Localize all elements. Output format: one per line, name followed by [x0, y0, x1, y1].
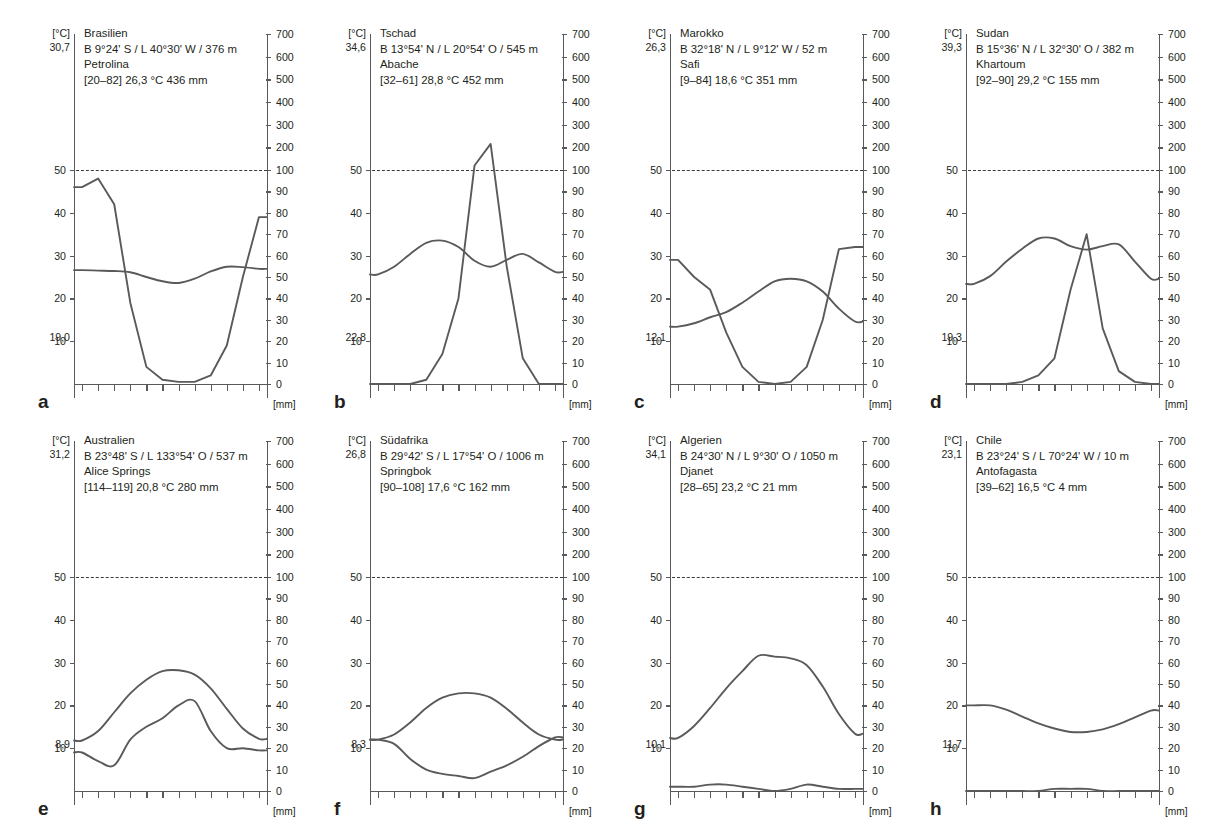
panel-letter-e: e — [38, 799, 49, 818]
climate-curves — [22, 12, 309, 404]
panel-letter-c: c — [634, 392, 645, 411]
temperature-curve — [370, 693, 563, 740]
climate-curves — [914, 419, 1201, 811]
climate-panel-c: [°C]26,312,11020304050010203040506070809… — [618, 12, 905, 402]
climate-curves — [22, 419, 309, 811]
climate-panel-a: [°C]30,719,01020304050010203040506070809… — [22, 12, 309, 402]
precipitation-curve — [74, 179, 267, 382]
temperature-curve — [670, 279, 863, 327]
plot-area: [°C]26,312,11020304050010203040506070809… — [618, 12, 905, 382]
plot-area: [°C]34,110,11020304050010203040506070809… — [618, 419, 905, 789]
climate-diagram-sheet: [°C]30,719,01020304050010203040506070809… — [0, 0, 1211, 833]
temperature-curve — [370, 240, 563, 275]
precipitation-curve — [670, 784, 863, 791]
panel-letter-a: a — [38, 392, 49, 411]
climate-panel-e: [°C]31,28,910203040500102030405060708090… — [22, 419, 309, 809]
panel-letter-g: g — [634, 799, 646, 818]
climate-panel-f: [°C]26,88,310203040500102030405060708090… — [318, 419, 605, 809]
plot-area: [°C]34,622,81020304050010203040506070809… — [318, 12, 605, 382]
precipitation-curve — [74, 700, 267, 767]
climate-curves — [318, 419, 605, 811]
panel-letter-f: f — [334, 799, 340, 818]
climate-curves — [618, 419, 905, 811]
climate-curves — [618, 12, 905, 404]
temperature-curve — [74, 266, 267, 283]
temperature-curve — [74, 670, 267, 741]
panel-letter-d: d — [930, 392, 942, 411]
climate-panel-b: [°C]34,622,81020304050010203040506070809… — [318, 12, 605, 402]
temperature-curve — [966, 237, 1159, 284]
plot-area: [°C]26,88,310203040500102030405060708090… — [318, 419, 605, 789]
plot-area: [°C]39,319,31020304050010203040506070809… — [914, 12, 1201, 382]
panel-letter-h: h — [930, 799, 942, 818]
climate-panel-d: [°C]39,319,31020304050010203040506070809… — [914, 12, 1201, 402]
precipitation-curve — [370, 737, 563, 778]
plot-area: [°C]23,111,71020304050010203040506070809… — [914, 419, 1201, 789]
climate-panel-g: [°C]34,110,11020304050010203040506070809… — [618, 419, 905, 809]
temperature-curve — [670, 655, 863, 739]
climate-panel-h: [°C]23,111,71020304050010203040506070809… — [914, 419, 1201, 809]
precipitation-curve — [966, 789, 1159, 791]
plot-area: [°C]31,28,910203040500102030405060708090… — [22, 419, 309, 789]
panel-letter-b: b — [334, 392, 346, 411]
climate-curves — [914, 12, 1201, 404]
precipitation-curve — [670, 247, 863, 384]
climate-curves — [318, 12, 605, 404]
plot-area: [°C]30,719,01020304050010203040506070809… — [22, 12, 309, 382]
temperature-curve — [966, 705, 1159, 732]
